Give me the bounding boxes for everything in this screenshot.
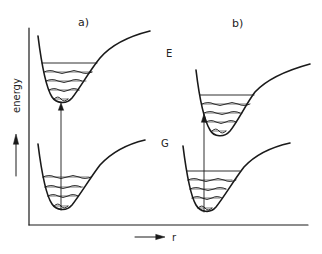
panel-b-label: b)	[232, 17, 243, 30]
panel-a-label: a)	[78, 16, 89, 29]
panel-b-excited-curve	[196, 64, 310, 136]
energy-arrow-icon	[14, 134, 19, 176]
excited-state-label: E	[166, 48, 172, 59]
panel-a-transition-arrow	[59, 103, 64, 210]
panel-b-transition-arrow	[202, 114, 207, 212]
y-axis-label: energy	[11, 78, 22, 113]
panel-a-excited-curve	[38, 31, 150, 102]
panel-a-ground-curve	[38, 140, 145, 209]
panel-b-ground-curve	[183, 143, 290, 211]
ground-state-label: G	[161, 138, 169, 149]
r-arrow-icon	[135, 235, 165, 240]
x-axis-label: r	[172, 232, 177, 243]
potential-energy-diagram: a) b) E G energy r	[0, 0, 322, 254]
